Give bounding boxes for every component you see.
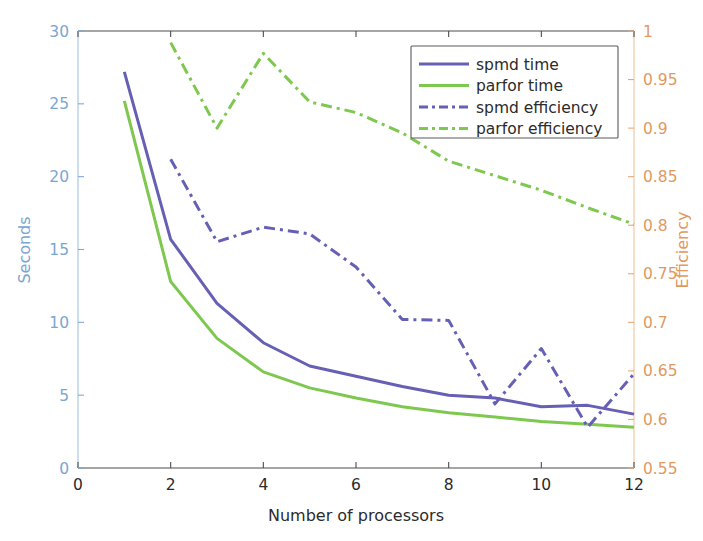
y-left-tick-label: 0 xyxy=(59,460,69,478)
x-tick-label: 8 xyxy=(444,476,454,494)
legend-label[interactable]: parfor efficiency xyxy=(476,120,602,138)
y-right-tick-label: 1 xyxy=(643,23,653,41)
x-tick-label: 10 xyxy=(531,476,551,494)
x-axis-label: Number of processors xyxy=(268,506,444,525)
legend-label[interactable]: spmd efficiency xyxy=(476,99,598,117)
y-axis-left-ticks: 051015202530 xyxy=(49,23,84,478)
y-right-tick-label: 0.7 xyxy=(643,314,668,332)
x-tick-label: 2 xyxy=(166,476,176,494)
figure-container: 024681012 051015202530 0.550.60.650.70.7… xyxy=(0,0,703,541)
y-right-tick-label: 0.85 xyxy=(643,168,678,186)
x-tick-label: 4 xyxy=(258,476,268,494)
legend-label[interactable]: parfor time xyxy=(476,77,563,95)
y-right-tick-label: 0.6 xyxy=(643,411,668,429)
x-tick-label: 0 xyxy=(73,476,83,494)
x-tick-label: 12 xyxy=(624,476,644,494)
chart-legend[interactable]: spmd timeparfor timespmd efficiencyparfo… xyxy=(411,46,618,138)
y-left-tick-label: 15 xyxy=(49,241,69,259)
y-axis-left-label: Seconds xyxy=(15,216,34,283)
y-right-tick-label: 0.9 xyxy=(643,120,668,138)
series-parfor-time xyxy=(124,101,634,427)
y-right-tick-label: 0.8 xyxy=(643,217,668,235)
y-left-tick-label: 20 xyxy=(49,168,69,186)
y-right-tick-label: 0.55 xyxy=(643,460,678,478)
y-left-tick-label: 10 xyxy=(49,314,69,332)
y-left-tick-label: 5 xyxy=(59,387,69,405)
legend-label[interactable]: spmd time xyxy=(476,56,559,74)
y-axis-right-ticks: 0.550.60.650.70.750.80.850.90.951 xyxy=(628,23,678,478)
line-chart: 024681012 051015202530 0.550.60.650.70.7… xyxy=(0,0,703,541)
x-tick-label: 6 xyxy=(351,476,361,494)
y-left-tick-label: 25 xyxy=(49,95,69,113)
y-left-tick-label: 30 xyxy=(49,23,69,41)
y-axis-right-label: Efficiency xyxy=(673,211,692,288)
y-right-tick-label: 0.65 xyxy=(643,362,678,380)
y-right-tick-label: 0.95 xyxy=(643,71,678,89)
